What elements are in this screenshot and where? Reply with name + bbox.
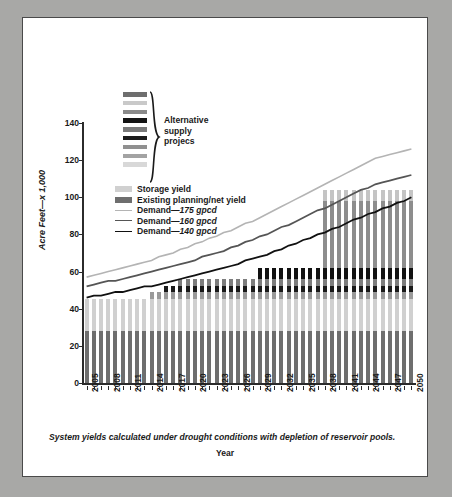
x-tick-mark (166, 386, 167, 390)
x-tick-label: 2008 (112, 373, 122, 392)
legend-swatch (115, 197, 132, 203)
alt-supply-swatch (123, 154, 147, 159)
x-tick-label: 2041 (350, 373, 360, 392)
x-tick-mark (180, 386, 181, 390)
legend-item: Demand—160 gpcd (115, 216, 246, 227)
x-tick-label: 2050 (415, 373, 425, 392)
alt-supply-line-2: supply (164, 126, 208, 137)
x-tick-mark (289, 386, 290, 390)
x-tick-mark (281, 386, 282, 390)
y-tick-label: 60 (69, 267, 79, 277)
y-axis-label: Acre Feet—x 1,000 (37, 170, 47, 250)
y-tick-label: 0 (74, 378, 79, 388)
legend-label: Demand—175 gpcd (137, 205, 217, 215)
x-tick-label: 2020 (198, 373, 208, 392)
x-tick-mark (339, 386, 340, 390)
y-tick-label: 100 (65, 192, 79, 202)
alt-supply-annotation: Alternative supply projecs (164, 115, 208, 147)
x-tick-mark (296, 386, 297, 390)
x-tick-mark (253, 386, 254, 390)
x-tick-mark (390, 386, 391, 390)
x-tick-mark (87, 386, 88, 390)
x-tick-label: 2044 (371, 373, 381, 392)
x-tick-mark (144, 386, 145, 390)
x-tick-mark (152, 386, 153, 390)
x-tick-mark (108, 386, 109, 390)
x-tick-mark (274, 386, 275, 390)
x-tick-mark (260, 386, 261, 390)
x-tick-mark (94, 386, 95, 390)
y-tick-label: 20 (69, 341, 79, 351)
legend-swatch (115, 186, 132, 192)
x-tick-label: 2023 (220, 373, 230, 392)
x-tick-mark (361, 386, 362, 390)
x-tick-label: 2014 (155, 373, 165, 392)
x-tick-mark (202, 386, 203, 390)
y-tick-label: 140 (65, 118, 79, 128)
x-tick-mark (137, 386, 138, 390)
alt-supply-swatch (123, 145, 147, 150)
legend-item: Demand—175 gpcd (115, 205, 246, 216)
alt-supply-swatch-stack (123, 92, 147, 171)
x-tick-label: 2038 (328, 373, 338, 392)
x-tick-mark (231, 386, 232, 390)
x-axis-label: Year (23, 448, 427, 458)
x-tick-mark (123, 386, 124, 390)
x-tick-mark (332, 386, 333, 390)
x-tick-label: 2011 (133, 374, 143, 392)
x-tick-label: 2032 (285, 373, 295, 392)
legend-item: Demand—140 gpcd (115, 226, 246, 237)
legend-label-emphasis: 175 gpcd (180, 205, 217, 215)
y-tick-mark (79, 383, 83, 384)
legend-item: Existing planning/net yield (115, 195, 246, 206)
x-tick-mark (303, 386, 304, 390)
x-tick-mark (195, 386, 196, 390)
x-tick-mark (159, 386, 160, 390)
alt-supply-line-1: Alternative (164, 115, 208, 126)
y-tick-label: 80 (69, 229, 79, 239)
legend-label-emphasis: 160 gpcd (180, 216, 217, 226)
legend-label-emphasis: 140 gpcd (180, 226, 217, 236)
x-tick-mark (115, 386, 116, 390)
legend-item: Storage yield (115, 184, 246, 195)
x-tick-mark (101, 386, 102, 390)
alt-supply-swatch (123, 118, 147, 123)
x-tick-mark (245, 386, 246, 390)
x-tick-label: 2026 (242, 373, 252, 392)
alt-supply-swatch (123, 110, 147, 115)
chart-legend: Storage yieldExisting planning/net yield… (115, 184, 246, 237)
x-tick-mark (346, 386, 347, 390)
alt-supply-swatch (123, 101, 147, 106)
x-tick-mark (354, 386, 355, 390)
x-tick-mark (375, 386, 376, 390)
x-tick-mark (209, 386, 210, 390)
legend-label: Existing planning/net yield (137, 195, 246, 205)
legend-label: Demand—160 gpcd (137, 216, 217, 226)
legend-line-swatch (115, 231, 132, 232)
x-tick-label: 2029 (263, 373, 273, 392)
y-tick-label: 40 (69, 304, 79, 314)
legend-label: Storage yield (137, 184, 191, 194)
alt-supply-line-3: projecs (164, 136, 208, 147)
figure-footnote: System yields calculated under drought c… (49, 432, 395, 442)
alt-supply-swatch (123, 92, 147, 97)
alt-supply-swatch (123, 136, 147, 141)
x-tick-label: 2005 (90, 373, 100, 392)
x-tick-mark (325, 386, 326, 390)
x-tick-mark (411, 386, 412, 390)
x-tick-mark (318, 386, 319, 390)
x-tick-mark (397, 386, 398, 390)
x-tick-mark (383, 386, 384, 390)
legend-line-swatch (115, 220, 132, 221)
x-tick-label: 2035 (307, 373, 317, 392)
x-tick-mark (238, 386, 239, 390)
alt-supply-swatch (123, 162, 147, 167)
legend-line-swatch (115, 210, 132, 211)
figure-frame: Acre Feet—x 1,000 020406080100120140 200… (22, 17, 428, 477)
x-tick-mark (173, 386, 174, 390)
alt-supply-swatch (123, 127, 147, 132)
x-tick-mark (217, 386, 218, 390)
x-tick-label: 2017 (177, 373, 187, 392)
x-tick-mark (130, 386, 131, 390)
curly-brace-icon (149, 91, 161, 183)
